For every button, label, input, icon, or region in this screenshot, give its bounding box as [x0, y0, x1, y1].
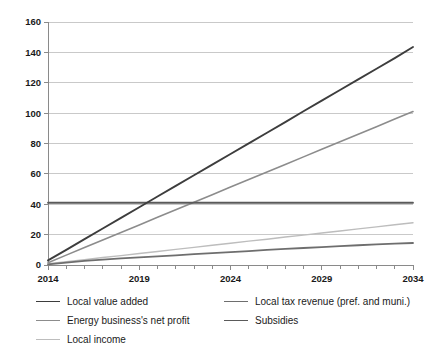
- x-tick-label: 2024: [220, 273, 242, 284]
- legend-label: Local value added: [67, 296, 148, 307]
- y-tick-label: 100: [25, 108, 41, 119]
- legend-label: Local income: [67, 334, 126, 345]
- series-line-energy-business-s-net-profit: [48, 112, 413, 263]
- legend-line-swatch: [224, 301, 248, 302]
- y-tick-label: 0: [36, 259, 41, 270]
- series-line-local-tax-revenue-pref-and-muni: [48, 243, 413, 264]
- y-tick-label: 60: [30, 168, 41, 179]
- y-tick-label: 80: [30, 138, 41, 149]
- legend-item[interactable]: Subsidies: [224, 311, 432, 330]
- legend-label: Subsidies: [255, 315, 298, 326]
- legend-column-1: Local value addedEnergy business's net p…: [36, 292, 224, 349]
- legend-label: Local tax revenue (pref. and muni.): [255, 296, 410, 307]
- legend-label: Energy business's net profit: [67, 315, 190, 326]
- y-tick-label: 20: [30, 229, 41, 240]
- plot-area: 0204060801001201401602014201920242029203…: [0, 0, 439, 288]
- legend-item[interactable]: Local tax revenue (pref. and muni.): [224, 292, 432, 311]
- legend-line-swatch: [224, 320, 248, 321]
- legend-column-2: Local tax revenue (pref. and muni.)Subsi…: [224, 292, 432, 349]
- x-tick-label: 2034: [402, 273, 424, 284]
- x-tick-label: 2014: [37, 273, 59, 284]
- x-tick-label: 2019: [129, 273, 150, 284]
- chart-root: 0204060801001201401602014201920242029203…: [0, 0, 439, 357]
- y-tick-label: 120: [25, 77, 41, 88]
- x-tick-label: 2029: [311, 273, 332, 284]
- legend-line-swatch: [36, 320, 60, 321]
- line-chart-svg: 0204060801001201401602014201920242029203…: [0, 0, 439, 288]
- legend-item[interactable]: Energy business's net profit: [36, 311, 224, 330]
- legend-item[interactable]: Local income: [36, 330, 224, 349]
- y-tick-label: 160: [25, 16, 41, 27]
- y-tick-label: 140: [25, 47, 41, 58]
- legend-item[interactable]: Local value added: [36, 292, 224, 311]
- legend-line-swatch: [36, 339, 60, 340]
- chart-legend: Local value addedEnergy business's net p…: [36, 292, 432, 349]
- y-tick-label: 40: [30, 199, 41, 210]
- legend-line-swatch: [36, 301, 60, 302]
